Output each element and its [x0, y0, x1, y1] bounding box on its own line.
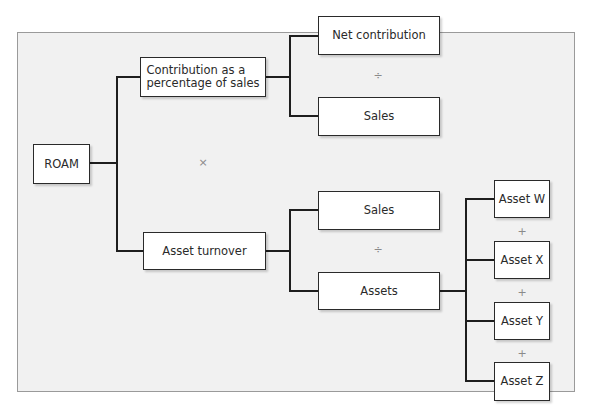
node-net-contribution: Net contribution — [318, 16, 440, 55]
divide-operator-turnover: ÷ — [370, 244, 386, 256]
node-label: Asset X — [501, 254, 544, 267]
connector-assets-vertical — [465, 198, 467, 382]
multiply-operator: × — [195, 157, 211, 169]
connector-to-net-contribution — [289, 35, 318, 37]
node-roam: ROAM — [33, 144, 90, 184]
connector-contribution-out — [265, 76, 291, 78]
connector-to-asset-turnover — [116, 250, 143, 252]
node-asset-turnover: Asset turnover — [143, 232, 266, 270]
divide-operator-contribution: ÷ — [370, 70, 386, 82]
connector-to-asset-y — [465, 320, 494, 322]
node-asset-w: Asset W — [494, 180, 550, 218]
connector-to-assets — [289, 290, 318, 292]
node-asset-x: Asset X — [494, 241, 550, 279]
node-label: ROAM — [44, 158, 79, 171]
connector-to-asset-z — [465, 380, 494, 382]
node-label: Asset Y — [501, 315, 543, 328]
connector-contribution-vertical — [289, 35, 291, 117]
connector-to-sales-bottom — [289, 209, 318, 211]
connector-to-asset-x — [465, 259, 494, 261]
node-contribution-percentage: Contribution as a percentage of sales — [140, 57, 266, 97]
node-sales-bottom: Sales — [318, 191, 440, 230]
plus-operator-2: + — [514, 287, 530, 299]
node-label: Net contribution — [332, 29, 426, 42]
plus-operator-1: + — [514, 226, 530, 238]
node-label-line2: percentage of sales — [146, 77, 259, 90]
node-label: Asset Z — [501, 375, 544, 388]
node-label: Asset W — [499, 193, 545, 206]
diagram-panel — [17, 32, 575, 392]
connector-assets-out — [439, 290, 467, 292]
node-sales-top: Sales — [318, 97, 440, 136]
connector-to-sales-top — [289, 115, 318, 117]
connector-to-contribution — [116, 76, 140, 78]
connector-roam-out — [89, 162, 118, 164]
plus-operator-3: + — [514, 348, 530, 360]
connector-turnover-out — [265, 250, 291, 252]
connector-level1-vertical — [116, 76, 118, 252]
connector-turnover-vertical — [289, 209, 291, 292]
connector-to-asset-w — [465, 198, 494, 200]
node-assets: Assets — [318, 272, 440, 310]
node-label: Sales — [364, 110, 395, 123]
node-label: Asset turnover — [162, 245, 246, 258]
node-asset-z: Asset Z — [494, 362, 550, 401]
node-label: Sales — [364, 204, 395, 217]
node-label: Assets — [360, 285, 397, 298]
node-asset-y: Asset Y — [494, 302, 550, 340]
